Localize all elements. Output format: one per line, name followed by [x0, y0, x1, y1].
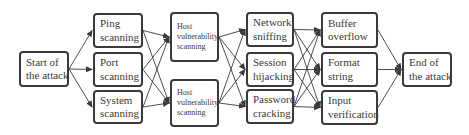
- node-label-line: sniffing: [253, 30, 292, 43]
- arrow-password-to-input: [294, 107, 320, 108]
- node-label-line: string: [328, 70, 376, 83]
- node-label-line: the attack: [409, 70, 450, 83]
- arrow-start-to-ping: [69, 31, 92, 70]
- node-label-line: the attack: [26, 69, 67, 82]
- node-password: Passwordcracking: [246, 89, 294, 124]
- node-label-line: Ping: [100, 17, 141, 30]
- node-host2: Hostvulnerabilityscanning: [170, 79, 219, 127]
- arrow-ping-to-host1: [143, 31, 169, 38]
- arrow-host1-to-network: [219, 30, 245, 38]
- node-label-line: Host: [177, 22, 217, 32]
- arrow-network-to-buffer: [294, 30, 320, 31]
- arrow-host1-to-session: [219, 37, 245, 70]
- node-label-line: Password: [253, 93, 292, 106]
- arrow-host1-to-password: [219, 37, 245, 107]
- node-label-line: Host: [177, 88, 217, 98]
- node-label-line: scanning: [177, 108, 217, 118]
- node-label-line: vulnerability: [177, 32, 217, 42]
- arrow-system-to-host2: [143, 103, 169, 107]
- node-start: Start ofthe attack: [19, 51, 69, 87]
- node-label-line: verification: [328, 108, 376, 121]
- node-label-line: System: [100, 94, 141, 107]
- arrow-buffer-to-end: [378, 30, 401, 70]
- node-label-line: Network: [253, 16, 292, 29]
- node-format: Formatstring: [321, 52, 378, 87]
- arrow-start-to-port: [69, 69, 92, 70]
- node-label-line: Input: [328, 94, 376, 107]
- node-host1: Hostvulnerabilityscanning: [170, 12, 219, 62]
- node-label-line: scanning: [100, 70, 141, 83]
- node-input: Inputverification: [321, 90, 378, 125]
- node-label-line: hijacking: [253, 70, 292, 83]
- node-label-line: scanning: [100, 31, 141, 44]
- node-system: Systemscanning: [93, 90, 143, 124]
- arrow-host2-to-network: [219, 30, 245, 104]
- node-network: Networksniffing: [246, 12, 294, 47]
- node-label-line: vulnerability: [177, 98, 217, 108]
- node-label-line: scanning: [177, 42, 217, 52]
- node-label-line: Session: [253, 56, 292, 69]
- node-label-line: overflow: [328, 30, 376, 43]
- node-session: Sessionhijacking: [246, 52, 294, 87]
- node-end: End ofthe attack: [402, 52, 452, 87]
- arrow-host2-to-password: [219, 103, 245, 107]
- node-ping: Pingscanning: [93, 13, 143, 48]
- node-label-line: Port: [100, 56, 141, 69]
- node-label-line: Format: [328, 56, 376, 69]
- connector-layer: [0, 0, 469, 135]
- arrow-port-to-host2: [143, 70, 169, 104]
- arrow-host2-to-session: [219, 70, 245, 104]
- node-label-line: cracking: [253, 107, 292, 120]
- node-label-line: End of: [409, 56, 450, 69]
- node-label-line: Start of: [26, 56, 67, 69]
- arrow-system-to-host1: [143, 37, 169, 107]
- node-buffer: Bufferoverflow: [321, 12, 378, 48]
- node-label-line: scanning: [100, 107, 141, 120]
- arrow-input-to-end: [378, 70, 401, 108]
- node-label-line: Buffer: [328, 17, 376, 30]
- arrow-start-to-system: [69, 69, 92, 107]
- node-port: Portscanning: [93, 52, 143, 87]
